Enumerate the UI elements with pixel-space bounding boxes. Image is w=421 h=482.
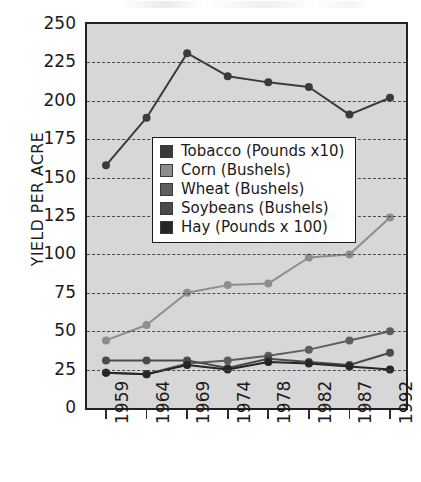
series-marker <box>102 161 110 169</box>
x-tick-mark <box>186 410 188 419</box>
series-marker <box>143 321 151 329</box>
gridline <box>87 370 406 371</box>
legend-label-corn: Corn (Bushels) <box>181 163 291 178</box>
x-tick-label: 1959 <box>114 381 131 424</box>
y-tick-label: 250 <box>30 15 76 32</box>
x-tick-mark <box>227 410 229 419</box>
series-marker <box>143 370 151 378</box>
legend-swatch-wheat <box>160 183 173 196</box>
series-marker <box>305 346 313 354</box>
legend-swatch-corn <box>160 164 173 177</box>
yield-per-acre-line-chart: YIELD PER ACRE 0255075100125150175200225… <box>0 0 421 482</box>
x-tick-label: 1982 <box>317 381 334 424</box>
series-marker <box>102 356 110 364</box>
legend-item: Hay (Pounds x 100) <box>160 218 349 237</box>
x-tick-label: 1974 <box>236 381 253 424</box>
legend-label-wheat: Wheat (Bushels) <box>181 182 304 197</box>
y-tick-label: 100 <box>30 245 76 262</box>
legend-label-hay: Hay (Pounds x 100) <box>181 220 328 235</box>
x-tick-mark <box>267 410 269 419</box>
legend-swatch-tobacco <box>160 145 173 158</box>
series-marker <box>264 358 272 366</box>
y-tick-label: 150 <box>30 169 76 186</box>
series-marker <box>386 349 394 357</box>
x-tick-mark <box>349 410 351 419</box>
y-tick-label: 175 <box>30 130 76 147</box>
x-tick-mark <box>146 410 148 419</box>
y-axis-tick-group: 0255075100125150175200225250 <box>24 0 76 482</box>
legend-item: Wheat (Bushels) <box>160 180 349 199</box>
y-tick-label: 25 <box>30 361 76 378</box>
legend-item: Tobacco (Pounds x10) <box>160 142 349 161</box>
series-marker <box>183 361 191 369</box>
series-marker <box>224 72 232 80</box>
y-tick-label: 125 <box>30 207 76 224</box>
gridline <box>87 331 406 332</box>
series-marker <box>224 281 232 289</box>
legend-item: Soybeans (Bushels) <box>160 199 349 218</box>
series-marker <box>224 356 232 364</box>
series-marker <box>345 336 353 344</box>
cropped-title-remnant <box>120 1 370 8</box>
series-marker <box>305 83 313 91</box>
x-tick-mark <box>105 410 107 419</box>
gridline <box>87 101 406 102</box>
x-tick-mark <box>389 410 391 419</box>
chart-legend: Tobacco (Pounds x10) Corn (Bushels) Whea… <box>152 137 356 243</box>
x-tick-label: 1969 <box>195 381 212 424</box>
gridline <box>87 254 406 255</box>
x-tick-label: 1987 <box>357 381 374 424</box>
series-marker <box>386 214 394 222</box>
y-tick-label: 50 <box>30 322 76 339</box>
legend-item: Corn (Bushels) <box>160 161 349 180</box>
series-marker <box>264 78 272 86</box>
legend-swatch-soybeans <box>160 202 173 215</box>
series-marker <box>143 356 151 364</box>
series-marker <box>102 336 110 344</box>
series-marker <box>264 280 272 288</box>
x-tick-label: 1992 <box>398 381 415 424</box>
y-tick-label: 75 <box>30 284 76 301</box>
gridline <box>87 293 406 294</box>
series-marker <box>183 49 191 57</box>
legend-label-soybeans: Soybeans (Bushels) <box>181 201 329 216</box>
x-tick-label: 1978 <box>276 381 293 424</box>
y-tick-label: 0 <box>30 399 76 416</box>
x-tick-mark <box>308 410 310 419</box>
legend-label-tobacco: Tobacco (Pounds x10) <box>181 144 344 159</box>
series-marker <box>345 111 353 119</box>
legend-swatch-hay <box>160 221 173 234</box>
gridline <box>87 62 406 63</box>
series-marker <box>143 114 151 122</box>
series-marker <box>305 359 313 367</box>
y-tick-label: 200 <box>30 92 76 109</box>
y-tick-label: 225 <box>30 53 76 70</box>
x-tick-label: 1964 <box>155 381 172 424</box>
